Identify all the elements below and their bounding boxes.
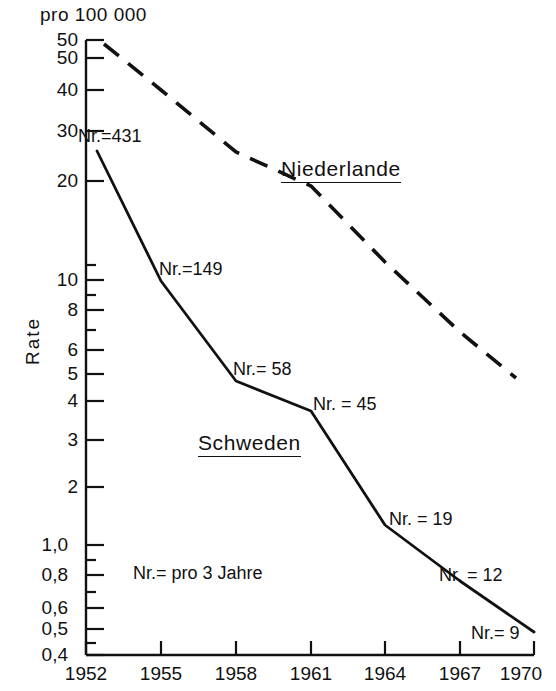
point-annotation: Nr.= 58 — [233, 359, 292, 380]
y-tick-label: 30 — [22, 120, 78, 142]
point-annotation: Nr. = 45 — [313, 394, 377, 415]
y-tick-label: 8 — [22, 299, 78, 321]
x-tick-label: 1958 — [201, 663, 271, 685]
y-tick-label: 0,6 — [12, 597, 68, 619]
chart-figure: pro 100 000 Rate — [0, 0, 556, 691]
x-tick-label: 1967 — [425, 663, 495, 685]
y-tick-label: 20 — [22, 170, 78, 192]
point-annotation: Nr. = 12 — [439, 565, 503, 586]
x-tick-label: 1955 — [126, 663, 196, 685]
series-label-niederlande: Niederlande — [281, 157, 401, 183]
y-tick-label: 4 — [22, 390, 78, 412]
series-label-schweden: Schweden — [198, 431, 301, 457]
point-annotation: Nr.=431 — [78, 126, 142, 147]
y-tick-label: 5 — [22, 363, 78, 385]
x-tick-label: 1970 — [486, 663, 556, 685]
x-tick-label: 1952 — [51, 663, 121, 685]
y-tick-label: 50 — [22, 47, 78, 69]
point-annotation: Nr. = 19 — [389, 509, 453, 530]
y-tick-label: 40 — [22, 79, 78, 101]
plot-area — [0, 0, 556, 691]
y-tick-label: 6 — [22, 339, 78, 361]
x-tick-label: 1964 — [350, 663, 420, 685]
point-annotation: Nr.= 9 — [471, 623, 520, 644]
y-tick-label: 10 — [22, 269, 78, 291]
series-line-niederlande — [104, 44, 516, 378]
x-tick-label: 1961 — [276, 663, 346, 685]
series-line-schweden — [97, 151, 534, 632]
x-ticks — [86, 641, 534, 655]
y-minor-ticks — [86, 265, 96, 643]
y-tick-label: 0,8 — [12, 564, 68, 586]
y-tick-label: 0,5 — [12, 618, 68, 640]
y-tick-label: 1,0 — [12, 534, 68, 556]
point-annotation: Nr.=149 — [159, 259, 223, 280]
footnote: Nr.= pro 3 Jahre — [133, 563, 263, 584]
y-tick-label: 3 — [22, 429, 78, 451]
y-tick-label: 2 — [22, 476, 78, 498]
